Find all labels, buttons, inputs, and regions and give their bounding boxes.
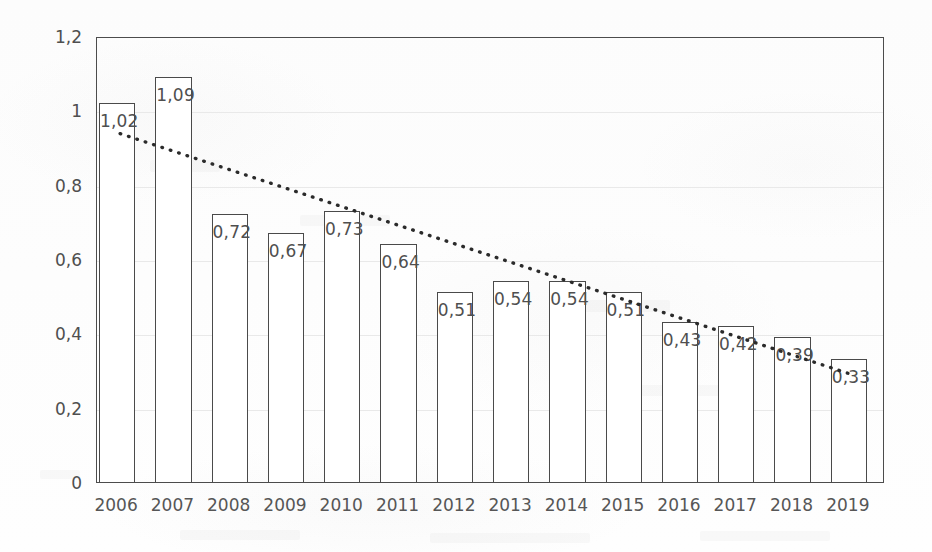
bar: 0,67	[268, 233, 304, 482]
bar-value-label: 1,02	[100, 111, 134, 131]
bar: 0,72	[212, 214, 248, 482]
bar: 0,33	[831, 359, 867, 482]
x-axis-tick-label: 2013	[488, 495, 531, 515]
bar: 1,02	[99, 103, 135, 482]
x-axis-tick-label: 2019	[826, 495, 869, 515]
bar: 1,09	[155, 77, 191, 482]
bar-value-label: 0,42	[719, 334, 753, 354]
x-axis-tick-label: 2008	[207, 495, 250, 515]
bar-value-label: 0,33	[832, 367, 866, 387]
x-axis-tick-label: 2014	[545, 495, 588, 515]
y-axis-tick-label: 0	[71, 473, 82, 493]
bar-value-label: 0,54	[550, 289, 584, 309]
y-axis-tick-label: 1	[71, 101, 82, 121]
plot-area: 1,021,090,720,670,730,640,510,540,540,51…	[96, 37, 884, 483]
bar-value-label: 0,51	[438, 300, 472, 320]
y-axis-tick-label: 0,2	[55, 399, 82, 419]
bar-value-label: 0,54	[494, 289, 528, 309]
y-axis-tick-label: 1,2	[55, 27, 82, 47]
bar: 0,51	[606, 292, 642, 482]
bar-value-label: 0,39	[775, 345, 809, 365]
chart-screenshot: 1,210,80,60,40,20 1,021,090,720,670,730,…	[0, 0, 932, 552]
bar: 0,51	[437, 292, 473, 482]
x-axis-tick-label: 2016	[657, 495, 700, 515]
bar-value-label: 0,43	[663, 330, 697, 350]
y-axis-tick-label: 0,4	[55, 324, 82, 344]
x-axis-tick-label: 2017	[714, 495, 757, 515]
x-axis-tick-label: 2007	[151, 495, 194, 515]
y-axis-tick-label: 0,8	[55, 176, 82, 196]
scan-artifact	[430, 533, 590, 543]
scan-artifact	[700, 531, 830, 541]
bar: 0,54	[549, 281, 585, 482]
bar-value-label: 0,64	[381, 252, 415, 272]
bar: 0,39	[774, 337, 810, 482]
x-axis-tick-label: 2015	[601, 495, 644, 515]
x-axis-tick-label: 2009	[263, 495, 306, 515]
bar-value-label: 0,73	[325, 219, 359, 239]
gridline	[97, 112, 883, 113]
x-axis-tick-label: 2012	[432, 495, 475, 515]
x-axis-tick-label: 2011	[376, 495, 419, 515]
bar: 0,64	[380, 244, 416, 482]
bar: 0,42	[718, 326, 754, 482]
x-axis-tick-label: 2018	[770, 495, 813, 515]
y-axis-tick-label: 0,6	[55, 250, 82, 270]
bar: 0,73	[324, 211, 360, 482]
bar: 0,54	[493, 281, 529, 482]
bar-value-label: 1,09	[156, 85, 190, 105]
x-axis-tick-label: 2010	[320, 495, 363, 515]
gridline	[97, 187, 883, 188]
y-axis-labels: 1,210,80,60,40,20	[0, 0, 82, 552]
bar-value-label: 0,72	[213, 222, 247, 242]
x-axis-tick-label: 2006	[94, 495, 137, 515]
bar-value-label: 0,51	[607, 300, 641, 320]
bar-value-label: 0,67	[269, 241, 303, 261]
scan-artifact	[180, 530, 300, 540]
bar: 0,43	[662, 322, 698, 482]
